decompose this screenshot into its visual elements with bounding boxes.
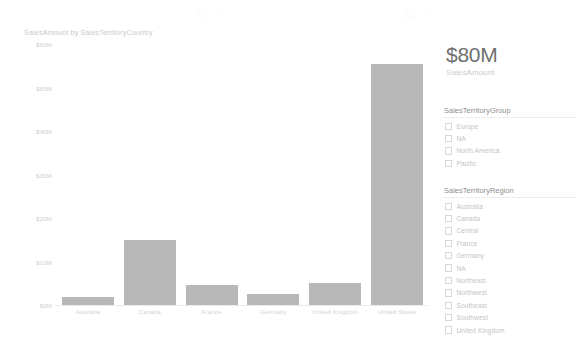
slicer-item-label: Central [456,227,478,234]
checkbox-icon[interactable] [445,314,452,321]
bar[interactable] [62,297,114,305]
slicer-item[interactable]: Southwest [444,312,577,324]
slicer-item-label: Northwest [456,289,487,296]
checkbox-icon[interactable] [445,326,452,333]
y-axis-tick-label: $30M [36,171,52,178]
visual-header: SalesAmount by SalesTerritoryCountry [24,28,429,40]
kpi-label: SalesAmount [446,68,574,77]
visual-header-icon-group-right [404,10,430,19]
checkbox-icon[interactable] [445,240,452,247]
x-axis-tick-label: United Kingdom [304,308,366,322]
filter-icon[interactable] [196,10,207,19]
report-canvas: SalesAmount by SalesTerritoryCountry $0M… [0,0,581,340]
slicer-sales-territory-group[interactable]: SalesTerritoryGroup EuropeNANorth Americ… [444,106,577,170]
y-axis-tick-label: $60M [36,41,52,48]
slicer-item-label: Europe [456,123,478,130]
checkbox-icon[interactable] [445,252,452,259]
y-axis-tick-label: $10M [36,258,52,265]
slicer-list: AustraliaCanadaCentralFranceGermanyNANor… [444,200,577,336]
slicer-item[interactable]: North America [444,145,577,157]
slicer-item-label: NA [456,135,465,142]
slicer-item[interactable]: Pacific [444,157,577,169]
more-options-icon[interactable] [419,10,430,19]
x-axis-tick-label: Germany [242,308,304,322]
slicer-list: EuropeNANorth AmericaPacific [444,120,577,170]
slicer-item-label: Southeast [456,302,487,309]
focus-mode-icon[interactable] [404,10,415,19]
x-axis-line [55,305,428,306]
bar-slot [242,44,304,305]
bar-slot [119,44,181,305]
slicer-item[interactable]: Germany [444,250,577,262]
checkbox-icon[interactable] [445,147,452,154]
slicer-item-label: North America [456,147,499,154]
bar[interactable] [186,285,238,305]
slicer-item-label: Southwest [456,314,488,321]
bar-slot [304,44,366,305]
slicer-item[interactable]: NA [444,262,577,274]
checkbox-icon[interactable] [445,264,452,271]
slicer-item[interactable]: Australia [444,200,577,212]
more-options-icon[interactable] [211,10,222,19]
bar-slot [181,44,243,305]
checkbox-icon[interactable] [445,203,452,210]
checkbox-icon[interactable] [445,123,452,130]
slicer-item[interactable]: Northeast [444,274,577,286]
slicer-item-label: Northeast [456,277,486,284]
checkbox-icon[interactable] [445,289,452,296]
bar[interactable] [247,294,299,305]
slicer-item[interactable]: Central [444,225,577,237]
kpi-card-visual[interactable]: $80M SalesAmount [446,44,574,77]
bars-layer [57,44,428,305]
slicer-header: SalesTerritoryRegion [444,186,577,198]
slicer-item-label: Pacific [456,160,476,167]
bar-slot [366,44,428,305]
bar-chart-visual[interactable]: SalesAmount by SalesTerritoryCountry $0M… [0,0,437,340]
bar[interactable] [124,240,176,305]
right-rail: $80M SalesAmount SalesTerritoryGroup Eur… [437,0,581,340]
chart-title: SalesAmount by SalesTerritoryCountry [24,28,429,37]
slicer-item-label: Germany [456,252,484,259]
slicer-item[interactable]: Europe [444,120,577,132]
x-axis-tick-label: France [181,308,243,322]
slicer-item[interactable]: NA [444,132,577,144]
x-axis-tick-label: Australia [57,308,119,322]
bar[interactable] [309,283,361,305]
x-axis: AustraliaCanadaFranceGermanyUnited Kingd… [57,308,428,322]
y-axis-tick-label: $0M [40,302,52,309]
checkbox-icon[interactable] [445,135,452,142]
slicer-item-label: NA [456,265,465,272]
slicer-item[interactable]: Northwest [444,287,577,299]
slicer-item-label: Australia [456,203,483,210]
slicer-item-label: Canada [456,215,480,222]
checkbox-icon[interactable] [445,215,452,222]
slicer-sales-territory-region[interactable]: SalesTerritoryRegion AustraliaCanadaCent… [444,186,577,336]
slicer-header: SalesTerritoryGroup [444,106,577,118]
y-axis: $0M$10M$20M$30M$40M$50M$60M [24,44,54,306]
checkbox-icon[interactable] [445,227,452,234]
x-axis-tick-label: United States [366,308,428,322]
y-axis-tick-label: $50M [36,84,52,91]
slicer-item[interactable]: United Kingdom [444,324,577,336]
slicer-item[interactable]: France [444,237,577,249]
y-axis-tick-label: $20M [36,215,52,222]
visual-header-icon-group-left [196,10,222,19]
checkbox-icon[interactable] [445,302,452,309]
slicer-item-label: United Kingdom [456,327,504,334]
bar[interactable] [371,64,423,305]
kpi-value: $80M [446,44,574,66]
slicer-item-label: France [456,240,477,247]
y-axis-tick-label: $40M [36,128,52,135]
x-axis-tick-label: Canada [119,308,181,322]
bar-slot [57,44,119,305]
slicer-item[interactable]: Canada [444,212,577,224]
plot-area: $0M$10M$20M$30M$40M$50M$60M AustraliaCan… [24,44,430,310]
checkbox-icon[interactable] [445,277,452,284]
checkbox-icon[interactable] [445,160,452,167]
slicer-item[interactable]: Southeast [444,299,577,311]
